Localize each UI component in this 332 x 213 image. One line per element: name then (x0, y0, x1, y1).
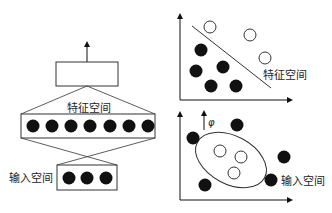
filled-point (195, 44, 208, 57)
feature-space-plot: 特征空间 (180, 16, 307, 100)
filled-point (199, 179, 212, 192)
input-node (81, 172, 94, 185)
feature-node (27, 120, 40, 133)
feature-node (46, 120, 59, 133)
feature-space-label: 特征空间 (67, 101, 111, 115)
feature-node (65, 120, 78, 133)
kernel-mapping-diagram: 特征空间 输入空间 (0, 0, 332, 213)
feature-node (104, 120, 117, 133)
phi-symbol: φ (208, 117, 215, 128)
input-space-plot: φ 输入空间 (180, 113, 325, 200)
filled-point (190, 65, 203, 78)
input-layer-nodes (63, 172, 113, 185)
cross-line-b (57, 138, 155, 165)
filled-point (205, 80, 218, 93)
filled-point (217, 61, 230, 74)
feature-node (123, 120, 136, 133)
diagram-canvas: 特征空间 输入空间 (0, 0, 332, 213)
filled-point (187, 132, 200, 145)
hollow-point (204, 21, 216, 33)
feature-node (142, 120, 155, 133)
filled-point (265, 174, 278, 187)
hollow-point (214, 145, 226, 157)
network-diagram: 特征空间 输入空间 (9, 44, 155, 190)
input-space-label: 输入空间 (9, 171, 53, 185)
cross-line-a (21, 138, 117, 165)
filled-point (230, 80, 243, 93)
feature-layer-nodes (27, 120, 155, 133)
input-plot-label: 输入空间 (281, 174, 325, 188)
hollow-point (228, 167, 240, 179)
filled-point (231, 119, 244, 132)
filled-point (278, 151, 291, 164)
feature-plot-label: 特征空间 (263, 68, 307, 82)
output-box (56, 62, 118, 86)
input-node (63, 172, 76, 185)
input-node (100, 172, 113, 185)
hollow-point (259, 52, 271, 64)
feature-node (84, 120, 97, 133)
hollow-point (244, 29, 256, 41)
hollow-point (235, 151, 247, 163)
